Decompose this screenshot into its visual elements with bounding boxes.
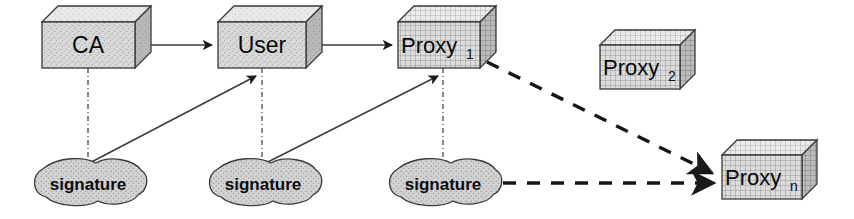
cloud-signature2-label: signature	[225, 175, 302, 194]
node-proxy2-top-face	[600, 30, 695, 45]
edge-signature1-to-user	[80, 76, 256, 168]
node-ca[interactable]: CA	[42, 6, 151, 68]
node-user-top-face	[218, 6, 322, 22]
cloud-signature3[interactable]: signature	[389, 159, 501, 206]
cloud-signature2[interactable]: signature	[209, 159, 321, 206]
edge-signature2-to-proxy1	[256, 76, 438, 168]
node-proxy2-label: Proxy	[603, 55, 659, 80]
node-proxyn-label: Proxy	[725, 165, 781, 190]
node-proxyn-subscript: n	[790, 178, 798, 194]
proxy-delegation-diagram: CA User Proxy 1 Proxy 2	[0, 0, 854, 219]
node-proxy2-subscript: 2	[668, 68, 676, 84]
node-proxyn-top-face	[722, 140, 817, 155]
node-ca-label: CA	[72, 32, 105, 58]
cloud-signature1[interactable]: signature	[34, 159, 146, 206]
cloud-signature3-label: signature	[405, 175, 482, 194]
diagram-canvas: CA User Proxy 1 Proxy 2	[0, 0, 854, 219]
node-proxy2[interactable]: Proxy 2	[600, 30, 695, 89]
cloud-signature1-label: signature	[50, 175, 127, 194]
node-proxy1[interactable]: Proxy 1	[398, 6, 496, 68]
node-ca-top-face	[42, 6, 151, 22]
node-proxy1-subscript: 1	[466, 46, 474, 62]
node-user[interactable]: User	[218, 6, 322, 68]
node-proxy1-label: Proxy	[401, 33, 457, 58]
node-proxy1-top-face	[398, 6, 496, 22]
node-proxyn[interactable]: Proxy n	[722, 140, 817, 199]
node-user-label: User	[238, 32, 287, 58]
